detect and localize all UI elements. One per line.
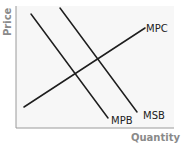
externality-diagram: MPC MSB MPB Quantity Price: [0, 0, 181, 151]
msb-label: MSB: [143, 110, 165, 121]
mpb-label: MPB: [111, 115, 133, 126]
mpc-label: MPC: [146, 23, 168, 34]
x-axis-label: Quantity: [131, 132, 180, 143]
y-axis-label: Price: [2, 7, 13, 36]
